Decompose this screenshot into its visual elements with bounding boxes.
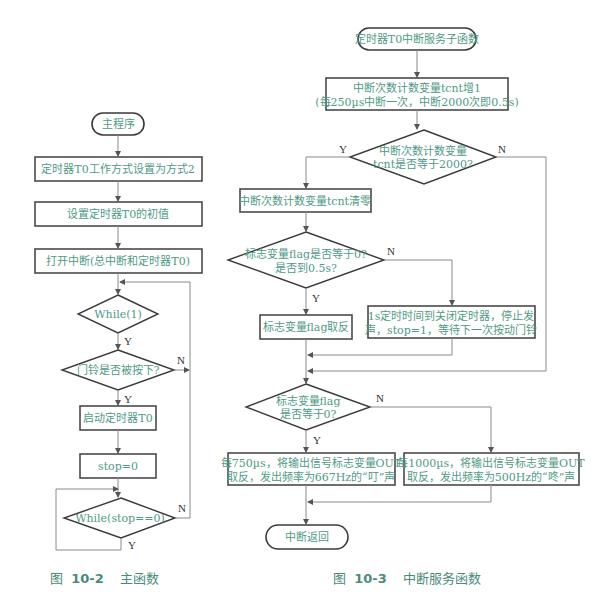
main-step-stop-zero-label: stop=0 [98, 460, 138, 473]
yes-label: Y [124, 335, 132, 347]
no-label: N [387, 245, 395, 257]
main-step-timer-mode-label: 定时器T0工作方式设置为方式2 [41, 162, 194, 176]
main-caption: 图 10-2 主函数 [50, 571, 159, 586]
main-decision-while-1-label: While(1) [94, 308, 142, 321]
isr-step-tcnt-clear-label: 中断次数计数变量tcnt清零 [239, 194, 371, 208]
no-label: N [498, 143, 506, 155]
caption-title: 中断服务函数 [403, 571, 481, 586]
isr-decision-tcnt-2000-line1: 中断次数计数变量 [379, 144, 467, 158]
isr-decision-tcnt-2000-line2: tcnt是否等于2000? [373, 157, 473, 171]
isr-decision-flag-half-second-line1: 标志变量flag是否等于0? [245, 247, 367, 261]
isr-decision-flag-half-second-line2: 是否到0.5s? [275, 262, 337, 275]
no-label: N [376, 392, 384, 404]
isr-step-ding-tone-line1: 每750µs，将输出信号标志变量OUT [221, 456, 402, 470]
no-label: N [177, 354, 185, 366]
main-step-enable-interrupt-label: 打开中断(总中断和定时器T0) [46, 254, 190, 268]
isr-step-tcnt-increment-line1: 中断次数计数变量tcnt增1 [353, 81, 481, 95]
main-step-init-value-label: 设置定时器T0的初值 [67, 207, 169, 221]
isr-step-one-second-stop-line2: 声，stop=1，等待下一次按动门铃 [365, 323, 537, 337]
yes-label: Y [312, 292, 320, 304]
isr-end-label: 中断返回 [285, 530, 329, 544]
no-label: N [178, 502, 186, 514]
isr-decision-flag-zero-line1: 标志变量flag [276, 394, 341, 408]
main-flowchart: 主程序 定时器T0工作方式设置为方式2 设置定时器T0的初值 打开中断(总中断和… [35, 113, 202, 586]
main-decision-while-stop-label: While(stop==0) [75, 512, 165, 525]
flowchart-canvas: 主程序 定时器T0工作方式设置为方式2 设置定时器T0的初值 打开中断(总中断和… [0, 0, 611, 599]
isr-step-dong-tone-line1: 每1000µs，将输出信号标志变量OUT [397, 456, 585, 470]
isr-step-tcnt-increment-line2: (每250µs中断一次，中断2000次即0.5s) [315, 95, 519, 109]
isr-step-ding-tone-line2: 取反，发出频率为667Hz的“叮”声 [227, 470, 396, 484]
isr-step-one-second-stop-line1: 1s定时时间到关闭定时器，停止发 [368, 309, 535, 323]
main-step-start-timer-label: 启动定时器T0 [83, 411, 152, 425]
isr-start-label: 定时器T0中断服务子函数 [355, 32, 479, 46]
isr-flowchart: 定时器T0中断服务子函数 中断次数计数变量tcnt增1 (每250µs中断一次，… [221, 28, 586, 586]
connector [308, 485, 491, 502]
isr-decision-flag-zero-line2: 是否等于0? [280, 407, 337, 421]
connector [306, 157, 350, 188]
isr-caption: 图 10-3 中断服务函数 [333, 571, 481, 586]
caption-title: 主函数 [120, 571, 159, 586]
yes-label: Y [128, 539, 136, 551]
caption-prefix: 图 [50, 571, 63, 586]
yes-label: Y [339, 143, 347, 155]
caption-number: 10-2 [71, 571, 104, 586]
yes-label: Y [124, 393, 132, 405]
isr-step-flag-invert-label: 标志变量flag取反 [263, 320, 350, 334]
connector [384, 260, 452, 305]
isr-step-dong-tone-line2: 取反，发出频率为500Hz的“咚”声 [407, 470, 576, 484]
connector [370, 407, 491, 452]
caption-prefix: 图 [333, 571, 346, 586]
yes-label: Y [313, 434, 321, 446]
main-start-label: 主程序 [102, 117, 135, 131]
connector [308, 338, 452, 355]
caption-number: 10-3 [354, 571, 387, 586]
main-decision-doorbell-label: 门铃是否被按下? [77, 363, 160, 377]
